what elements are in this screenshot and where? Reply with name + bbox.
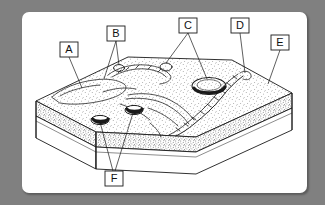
figure-root: A B C D E bbox=[0, 0, 325, 205]
figure-card bbox=[22, 12, 307, 193]
